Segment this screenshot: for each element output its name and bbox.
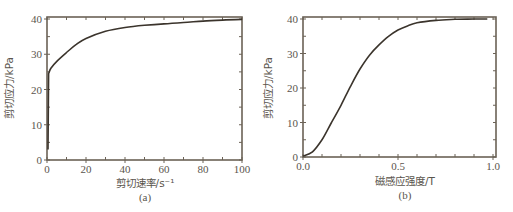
data-curve [303, 19, 487, 156]
y-tick-label: 20 [287, 82, 299, 94]
y-tick-label: 0 [293, 151, 299, 163]
x-tick-label: 0 [44, 163, 50, 175]
panel-a-shear-rate-chart: 020406080100 010203040 剪切应力/kPa 剪切速率/s⁻¹… [3, 13, 251, 204]
y-tick-label: 10 [287, 117, 299, 129]
x-axis-label: 磁感应强度/T [375, 175, 436, 187]
x-axis-ticks: 0.00.51.0 [296, 17, 500, 172]
x-tick-label: 0.0 [296, 160, 310, 172]
y-tick-label: 0 [37, 154, 43, 166]
x-tick-label: 20 [81, 163, 93, 175]
plot-frame [303, 17, 496, 157]
data-curve [48, 19, 242, 149]
y-tick-label: 30 [31, 48, 43, 60]
y-axis-label: 剪切应力/kPa [262, 57, 274, 119]
plot-frame [47, 17, 242, 160]
y-tick-label: 10 [31, 119, 43, 131]
panel-b-magnetic-field-chart: 0.00.51.0 010203040 剪切应力/kPa 磁感应强度/T (b) [262, 13, 500, 202]
y-axis-ticks: 010203040 [287, 13, 496, 163]
x-axis-ticks: 020406080100 [44, 17, 251, 175]
x-tick-label: 80 [198, 163, 210, 175]
x-tick-label: 1.0 [486, 160, 500, 172]
figure: 020406080100 010203040 剪切应力/kPa 剪切速率/s⁻¹… [0, 0, 513, 212]
y-tick-label: 40 [287, 13, 299, 25]
y-tick-label: 20 [31, 84, 43, 96]
panel-label: (a) [139, 191, 152, 204]
y-tick-label: 40 [31, 13, 43, 25]
x-axis-label: 剪切速率/s⁻¹ [116, 177, 175, 189]
x-tick-label: 60 [159, 163, 171, 175]
y-tick-label: 30 [287, 48, 299, 60]
x-tick-label: 0.5 [391, 160, 405, 172]
y-axis-label: 剪切应力/kPa [3, 57, 15, 119]
panel-label: (b) [399, 189, 412, 202]
x-tick-label: 100 [234, 163, 251, 175]
y-axis-ticks: 010203040 [31, 13, 242, 166]
x-tick-label: 40 [120, 163, 132, 175]
